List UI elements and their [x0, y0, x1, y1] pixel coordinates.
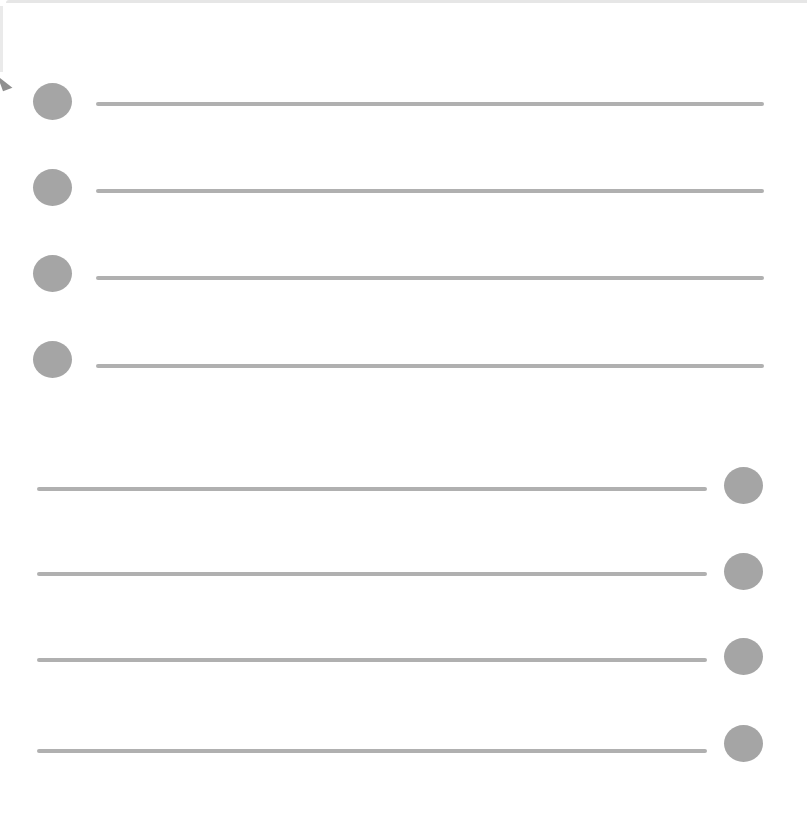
- text-placeholder-line: [96, 364, 764, 368]
- text-placeholder-line: [96, 189, 764, 193]
- bullet-dot-icon: [724, 467, 763, 504]
- text-placeholder-line: [37, 658, 707, 662]
- bullet-dot-icon: [724, 638, 763, 675]
- corner-pointer-icon: [0, 73, 12, 91]
- bullet-dot-icon: [724, 553, 763, 590]
- text-placeholder-line: [37, 749, 707, 753]
- bullet-dot-icon: [33, 169, 72, 206]
- text-placeholder-line: [96, 276, 764, 280]
- bullet-dot-icon: [724, 725, 763, 762]
- text-placeholder-line: [37, 487, 707, 491]
- frame-left-edge: [0, 6, 3, 72]
- text-placeholder-line: [96, 102, 764, 106]
- text-placeholder-line: [37, 572, 707, 576]
- bullet-dot-icon: [33, 255, 72, 292]
- frame-top-edge: [6, 0, 807, 3]
- bullet-dot-icon: [33, 83, 72, 120]
- bullet-dot-icon: [33, 341, 72, 378]
